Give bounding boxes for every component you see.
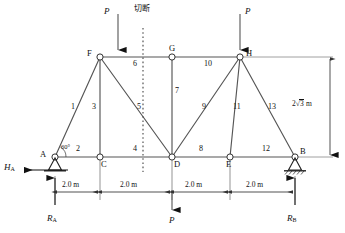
member-label-5: 5 — [137, 103, 141, 111]
member-label-3: 3 — [92, 103, 96, 111]
reaction-label-RB: RB — [287, 214, 297, 223]
node-label-F: F — [87, 49, 92, 58]
dim-label-height: 2√3 m — [292, 99, 312, 108]
node-label-B: B — [300, 147, 306, 156]
member-label-2: 2 — [76, 145, 80, 153]
member-label-10: 10 — [204, 60, 212, 68]
member-label-9: 9 — [202, 103, 206, 111]
load-label-F: P — [104, 7, 110, 16]
member-label-13: 13 — [268, 103, 276, 111]
member-label-11: 11 — [233, 103, 241, 111]
truss-drawing — [0, 0, 345, 233]
node-label-H: H — [246, 49, 252, 58]
dim-label-span-2: 2.0 m — [120, 181, 137, 189]
node-label-C: C — [101, 160, 107, 169]
reaction-label-RA: RA — [47, 214, 57, 223]
member-5-line — [100, 57, 172, 157]
load-label-H: P — [245, 7, 251, 16]
joint-H — [237, 54, 243, 60]
reaction-subscript-RB: B — [293, 217, 297, 223]
node-label-E: E — [226, 160, 231, 169]
load-label-D: P — [169, 216, 175, 225]
dim-label-span-1: 2.0 m — [62, 181, 79, 189]
node-label-A: A — [40, 150, 46, 159]
height-unit: m — [304, 99, 312, 108]
member-label-1: 1 — [71, 103, 75, 111]
reaction-subscript-A: A — [11, 166, 15, 172]
member-label-6: 6 — [133, 60, 137, 68]
dim-label-span-4: 2.0 m — [246, 181, 263, 189]
sqrt-icon: √3 — [296, 99, 304, 108]
section-cut-label: 切断 — [134, 4, 143, 14]
joint-G — [169, 54, 175, 60]
reaction-subscript-RA: A — [53, 217, 57, 223]
angle-label-60: 60° — [61, 144, 70, 151]
node-label-D: D — [174, 160, 180, 169]
truss-diagram-figure: A C D E B F G H 1 2 3 4 5 6 7 8 9 10 11 … — [0, 0, 345, 233]
reaction-label-HA: HA — [4, 163, 15, 172]
member-label-4: 4 — [133, 145, 137, 153]
member-label-8: 8 — [199, 145, 203, 153]
node-label-G: G — [169, 44, 175, 53]
member-label-12: 12 — [262, 145, 270, 153]
member-9-line — [172, 57, 240, 157]
dim-label-span-3: 2.0 m — [185, 181, 202, 189]
member-label-7: 7 — [175, 87, 179, 95]
joint-F — [97, 54, 103, 60]
